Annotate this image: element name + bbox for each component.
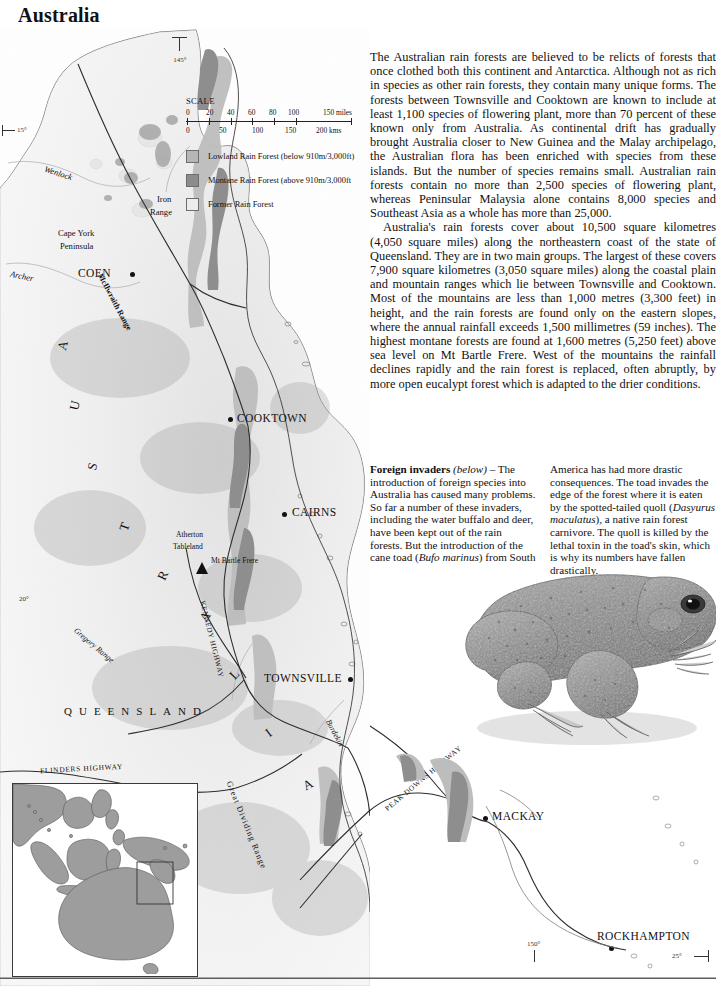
- longitude-marker-150: 150°: [527, 940, 540, 948]
- scale-axis-line: [186, 121, 352, 122]
- tick-stem: [534, 950, 535, 962]
- legend-swatch-montane: [186, 174, 199, 187]
- caption-left-text: – The introduction of foreign species in…: [370, 463, 535, 563]
- legend-swatch-former: [186, 198, 199, 211]
- tick-cap: [708, 950, 709, 962]
- legend-item-lowland: Lowland Rain Forest (below 910m/3,000ft): [186, 150, 366, 163]
- page-footer-rule: [0, 978, 716, 979]
- article-text-column: The Australian rain forests are believed…: [370, 50, 716, 391]
- city-label-rockhampton: ROCKHAMPTON: [597, 930, 690, 942]
- scale-tick: [209, 118, 210, 125]
- tick-cap: [172, 37, 187, 38]
- caption-heading: Foreign invaders: [370, 463, 450, 475]
- scale-tick: [187, 118, 188, 125]
- page-title: Australia: [18, 4, 100, 27]
- region-label-queensland: QUEENSLAND: [64, 705, 208, 717]
- coord-text: 15°: [17, 126, 27, 134]
- scale-tick-label: 100: [252, 126, 263, 135]
- city-dot: [609, 946, 614, 951]
- toad-eye: [681, 595, 705, 613]
- latitude-marker-20: 20°: [19, 595, 29, 603]
- city-dot: [483, 816, 488, 821]
- scale-unit-label: 200 kms: [316, 126, 341, 135]
- coord-text: 145°: [173, 56, 186, 64]
- tick-cap: [2, 125, 3, 136]
- scale-tick-label: 40: [227, 108, 234, 117]
- legend-item-former: Former Rain Forest: [186, 198, 366, 211]
- toad-parotoid-gland: [648, 608, 682, 632]
- latitude-marker-15: 15°: [17, 126, 27, 134]
- paragraph-1: The Australian rain forests are believed…: [370, 50, 716, 220]
- scale-axis: [186, 118, 356, 125]
- city-dot: [348, 677, 353, 682]
- legend-label-lowland: Lowland Rain Forest (below 910m/3,000ft): [208, 152, 354, 161]
- scale-miles-labels: 0 20 40 60 80 100 150 miles: [186, 108, 356, 118]
- tick-stem: [179, 38, 180, 51]
- scale-bar-group: 0 20 40 60 80 100 150 miles 0 50: [186, 108, 356, 136]
- coord-text: 25°: [672, 952, 682, 960]
- scale-tick-label: 20: [206, 108, 213, 117]
- scale-tick-label: 50: [219, 126, 226, 135]
- feature-label-mt-bartle-frere: Mt Bartle Frere: [211, 556, 258, 565]
- scale-tick: [351, 118, 352, 125]
- city-name: CAIRNS: [292, 506, 337, 518]
- city-label-cairns: CAIRNS: [292, 506, 337, 518]
- scale-tick: [296, 118, 297, 125]
- scale-tick-label: 150: [285, 126, 296, 135]
- scale-km-labels: 0 50 100 150 200 kms: [186, 126, 356, 136]
- scale-and-legend: SCALE 0 20 40 60 80 100 150 miles: [186, 96, 366, 211]
- scale-tick-label: 100: [288, 108, 299, 117]
- scale-tick-label: 60: [248, 108, 255, 117]
- scale-unit-label: 150 miles: [323, 108, 352, 117]
- paragraph-2: Australia's rain forests cover about 10,…: [370, 220, 716, 390]
- caption-heading-note: (below): [453, 463, 487, 475]
- tick-stem: [694, 956, 708, 957]
- legend-label-montane: Montane Rain Forest (above 910m/3,000ft: [208, 176, 351, 185]
- feature-label-peninsula: Peninsula: [60, 241, 93, 251]
- city-name: MACKAY: [492, 810, 544, 822]
- legend-item-montane: Montane Rain Forest (above 910m/3,000ft: [186, 174, 366, 187]
- tick-stem: [3, 130, 15, 131]
- inset-map-svg: [13, 784, 195, 974]
- scale-tick-label: 0: [186, 108, 190, 117]
- city-label-mackay: MACKAY: [492, 810, 544, 822]
- city-dot: [282, 512, 287, 517]
- coord-text: 150°: [527, 940, 540, 948]
- city-dot: [130, 272, 135, 277]
- city-label-townsville: TOWNSVILLE: [264, 672, 342, 684]
- feature-label-cape-york: Cape York: [58, 228, 94, 238]
- cane-toad-illustration: [455, 560, 716, 760]
- scale-tick: [252, 118, 253, 125]
- scale-tick-label: 0: [186, 126, 190, 135]
- city-dot: [228, 417, 233, 422]
- legend-label-former: Former Rain Forest: [208, 200, 274, 209]
- latitude-marker-25: 25°: [672, 952, 682, 960]
- city-label-cooktown: COOKTOWN: [237, 412, 307, 424]
- magazine-page: Australia: [0, 0, 716, 986]
- city-name: ROCKHAMPTON: [597, 930, 690, 942]
- city-name: COOKTOWN: [237, 412, 307, 424]
- scale-tick-label: 80: [269, 108, 276, 117]
- feature-label-atherton: Atherton: [176, 530, 203, 539]
- inset-locator-map: [12, 783, 198, 977]
- feature-label-range: Range: [150, 207, 172, 217]
- longitude-marker-145: 145°: [163, 56, 197, 64]
- scale-tick: [274, 118, 275, 125]
- city-name: TOWNSVILLE: [264, 672, 342, 684]
- feature-label-tableland: Tableland: [173, 542, 203, 551]
- feature-label-peak-downs-highway: PEAK DOWNS HIGHWAY: [383, 743, 463, 812]
- coord-text: 20°: [19, 595, 29, 603]
- feature-label-iron: Iron: [157, 194, 171, 204]
- scale-title: SCALE: [186, 96, 366, 106]
- legend-swatch-lowland: [186, 150, 199, 163]
- scale-tick: [231, 118, 232, 125]
